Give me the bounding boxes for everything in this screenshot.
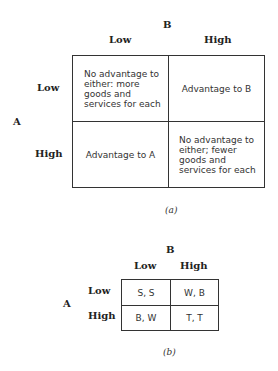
row-label-high: High (88, 310, 116, 321)
col-label-low: Low (134, 260, 156, 271)
cell-text: No advantage to either: more goods and s… (84, 69, 164, 109)
cell-text: Advantage to A (86, 150, 155, 160)
cell-high-low: Advantage to A (72, 121, 169, 188)
row-label-low: Low (88, 285, 110, 296)
row-player-label: A (63, 298, 71, 309)
col-label-low: Low (109, 34, 131, 45)
cell-text: Advantage to B (182, 84, 251, 94)
cell-text: S, S (137, 288, 154, 298)
cell-text: W, B (184, 288, 205, 298)
cell-high-low: B, W (121, 305, 171, 331)
cell-low-high: W, B (170, 279, 219, 306)
cell-text: No advantage to either; fewer goods and … (179, 135, 256, 175)
cell-high-high: No advantage to either; fewer goods and … (168, 121, 265, 188)
col-player-label: B (166, 244, 174, 255)
caption-a: (a) (165, 205, 177, 215)
cell-low-low: S, S (121, 279, 171, 306)
cell-text: B, W (136, 313, 157, 323)
col-player-label: B (163, 19, 171, 30)
col-label-high: High (204, 34, 232, 45)
col-label-high: High (180, 260, 208, 271)
cell-text: T, T (186, 313, 203, 323)
cell-low-low: No advantage to either: more goods and s… (72, 55, 169, 122)
row-player-label: A (13, 116, 21, 127)
cell-low-high: Advantage to B (168, 55, 265, 122)
cell-high-high: T, T (170, 305, 219, 331)
row-label-high: High (35, 148, 63, 159)
caption-b: (b) (163, 347, 176, 357)
row-label-low: Low (37, 82, 59, 93)
